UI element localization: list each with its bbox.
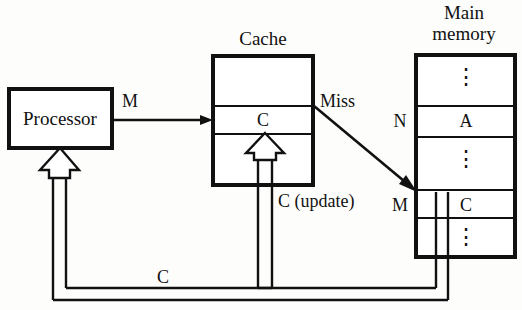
processor-return-arrowhead [40,148,79,178]
diagram-canvas: Cache Main memory Processor C ⋮ A ⋮ C ⋮ … [0,0,522,310]
memory-address-n: N [394,112,407,130]
cache-title: Cache [239,29,286,48]
main-memory-title-line2: memory [432,24,495,43]
memory-cell-0: ⋮ [455,66,477,88]
processor-label: Processor [23,109,97,128]
memory-cell-4: ⋮ [455,226,477,248]
signal-cache-update-label: C (update) [278,192,354,210]
memory-cell-a: A [460,112,473,130]
main-memory-title-line1: Main [444,3,484,22]
cache-cell-c: C [257,111,269,129]
memory-cell-c: C [460,196,472,214]
signal-return-c-label: C [157,268,169,286]
memory-address-m: M [392,196,408,214]
memory-cell-2: ⋮ [455,148,477,170]
signal-miss-label: Miss [320,92,355,110]
signal-m-label: M [122,92,138,110]
